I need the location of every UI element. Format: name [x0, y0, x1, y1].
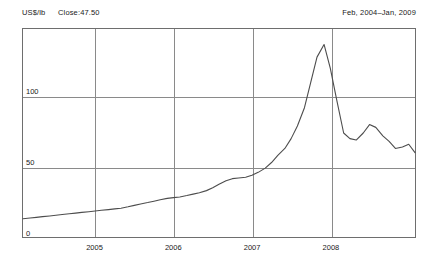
plot-area: 050100: [22, 28, 416, 238]
series-line: [23, 44, 415, 218]
x-tick-label: 2006: [165, 243, 182, 253]
price-line: [23, 29, 415, 237]
series-layer: [23, 29, 415, 237]
close-value-label: Close:47.50: [58, 8, 100, 18]
x-tick-label: 2005: [86, 243, 103, 253]
price-chart: US$/lb Close:47.50 Feb, 2004–Jan, 2009 0…: [0, 0, 433, 265]
unit-label: US$/lb: [22, 8, 45, 18]
x-tick-label: 2007: [244, 243, 261, 253]
date-range-label: Feb, 2004–Jan, 2009: [342, 8, 416, 18]
x-tick-label: 2008: [323, 243, 340, 253]
